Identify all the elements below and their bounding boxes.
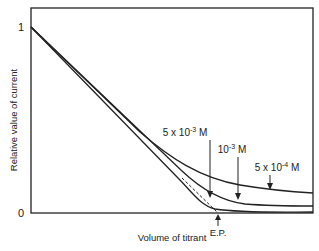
plot-frame [31,8,313,213]
extrapolation-line [182,178,218,213]
x-axis-label: Volume of titrant [138,232,207,243]
chart-canvas: 1 0 Relative value of current Volume of … [0,0,319,251]
y-axis-label: Relative value of current [8,68,19,171]
y-tick-1: 1 [18,21,24,33]
label-1e-3M: 10-3 M [218,143,246,155]
curve-1e-3M [31,27,313,206]
titration-chart: 1 0 Relative value of current Volume of … [0,0,319,251]
arrowhead-icon [207,191,213,198]
label-5e-3M: 5 x 10-3 M [163,126,208,138]
label-5e-4M: 5 x 10-4 M [255,161,300,173]
label-endpoint: E.P. [210,227,227,238]
arrowhead-icon [235,193,241,200]
arrowhead-icon [215,214,221,220]
y-tick-0: 0 [18,207,24,219]
